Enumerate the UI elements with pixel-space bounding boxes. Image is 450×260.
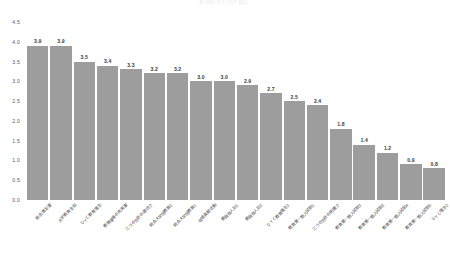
y-axis: 4.54.03.53.02.52.01.51.00.50.0 bbox=[0, 22, 24, 200]
x-label-slot: 総合大学院教育2 bbox=[144, 200, 166, 260]
x-label-slot: 教員個人別1 bbox=[214, 200, 236, 260]
bar-slot[interactable]: 1.2 bbox=[377, 22, 399, 200]
y-axis-tick: 1.5 bbox=[12, 138, 20, 144]
x-label-slot: 教育第一期入試制2 bbox=[330, 200, 352, 260]
x-label-slot: 総合満足度 bbox=[27, 200, 49, 260]
x-label-slot: 大学教育全般 bbox=[50, 200, 72, 260]
bar-slot[interactable]: 3.9 bbox=[50, 22, 72, 200]
bar-value-label: 0.9 bbox=[407, 157, 414, 163]
x-label-slot: 教育環境の充実度 bbox=[97, 200, 119, 260]
bar-value-label: 3.2 bbox=[174, 66, 181, 72]
x-label-slot: 総合大学院教育1 bbox=[167, 200, 189, 260]
x-label-slot: ＤＹＣ教育理念2 bbox=[260, 200, 282, 260]
bar-value-label: 1.8 bbox=[337, 121, 344, 127]
x-label-slot: 教育第一期入試制3 bbox=[353, 200, 375, 260]
bar-value-label: 3.4 bbox=[104, 58, 111, 64]
bar-value-label: 3.5 bbox=[81, 54, 88, 60]
bar[interactable] bbox=[120, 69, 142, 200]
bar[interactable] bbox=[423, 168, 445, 200]
bar-slot[interactable]: 3.4 bbox=[97, 22, 119, 200]
x-label-slot: 教育第一期入試制1 bbox=[284, 200, 306, 260]
bar-slot[interactable]: 3.3 bbox=[120, 22, 142, 200]
y-axis-tick: 3.5 bbox=[12, 59, 20, 65]
bar[interactable] bbox=[214, 81, 236, 200]
bar-slot[interactable]: 3.9 bbox=[27, 22, 49, 200]
bar-slot[interactable]: 1.8 bbox=[330, 22, 352, 200]
bar-slot[interactable]: 0.9 bbox=[400, 22, 422, 200]
y-axis-tick: 0.5 bbox=[12, 177, 20, 183]
bar[interactable] bbox=[400, 164, 422, 200]
bar-slot[interactable]: 3.0 bbox=[190, 22, 212, 200]
bar[interactable] bbox=[74, 62, 96, 200]
bar-slot[interactable]: 3.2 bbox=[144, 22, 166, 200]
x-label-slot: 地域貢献活動 bbox=[190, 200, 212, 260]
bar[interactable] bbox=[260, 93, 282, 200]
bar[interactable] bbox=[50, 46, 72, 200]
y-axis-tick: 4.5 bbox=[12, 19, 20, 25]
bar-value-label: 2.5 bbox=[291, 94, 298, 100]
bar[interactable] bbox=[284, 101, 306, 200]
bar[interactable] bbox=[307, 105, 329, 200]
bar-value-label: 3.0 bbox=[221, 74, 228, 80]
y-axis-tick: 1.0 bbox=[12, 157, 20, 163]
x-label-slot: 教員個人別2 bbox=[237, 200, 259, 260]
bar[interactable] bbox=[190, 81, 212, 200]
plot-area: 3.93.93.53.43.33.23.23.03.02.92.72.52.41… bbox=[26, 22, 446, 200]
chart-title: 各項目の平均評価点 bbox=[0, 0, 448, 5]
bar-series: 3.93.93.53.43.33.23.23.03.02.92.72.52.41… bbox=[26, 22, 446, 200]
x-axis-label: 総合満足度 bbox=[34, 202, 52, 220]
bar[interactable] bbox=[377, 153, 399, 200]
y-axis-tick: 4.0 bbox=[12, 39, 20, 45]
bar-slot[interactable]: 2.9 bbox=[237, 22, 259, 200]
bar-slot[interactable]: 3.0 bbox=[214, 22, 236, 200]
x-label-slot: 三つの方針の明確さ bbox=[307, 200, 329, 260]
bar-slot[interactable]: 3.5 bbox=[74, 22, 96, 200]
bar-value-label: 2.4 bbox=[314, 98, 321, 104]
x-axis-labels: 総合満足度大学教育全般ＤＹＣ教育理念教育環境の充実度三つの方針の適切さ総合大学院… bbox=[26, 200, 446, 260]
bar-slot[interactable]: 2.4 bbox=[307, 22, 329, 200]
bar-value-label: 3.9 bbox=[34, 38, 41, 44]
bar-value-label: 3.9 bbox=[57, 38, 64, 44]
y-axis-tick: 2.5 bbox=[12, 98, 20, 104]
bar[interactable] bbox=[353, 145, 375, 200]
bar-value-label: 2.9 bbox=[244, 78, 251, 84]
y-axis-tick: 2.0 bbox=[12, 118, 20, 124]
bar-slot[interactable]: 3.2 bbox=[167, 22, 189, 200]
bar-value-label: 3.2 bbox=[151, 66, 158, 72]
y-axis-tick: 0.0 bbox=[12, 197, 20, 203]
bar-value-label: 1.2 bbox=[384, 145, 391, 151]
x-label-slot: 三つの方針の適切さ bbox=[120, 200, 142, 260]
bar-value-label: 3.0 bbox=[197, 74, 204, 80]
bar[interactable] bbox=[27, 46, 49, 200]
bar-value-label: 2.7 bbox=[267, 86, 274, 92]
bar-slot[interactable]: 2.7 bbox=[260, 22, 282, 200]
x-label-slot: ＤＹＣ理念2 bbox=[423, 200, 445, 260]
bar[interactable] bbox=[237, 85, 259, 200]
bar-value-label: 3.3 bbox=[127, 62, 134, 68]
bar[interactable] bbox=[144, 73, 166, 200]
x-axis-label: ＤＹＣ理念2 bbox=[430, 202, 450, 222]
bar-slot[interactable]: 2.5 bbox=[284, 22, 306, 200]
bar-value-label: 0.8 bbox=[431, 161, 438, 167]
bar[interactable] bbox=[330, 129, 352, 200]
y-axis-tick: 3.0 bbox=[12, 78, 20, 84]
bar-value-label: 1.4 bbox=[361, 137, 368, 143]
x-label-slot: 教育第一期入試制4 bbox=[377, 200, 399, 260]
bar-slot[interactable]: 0.8 bbox=[423, 22, 445, 200]
bar[interactable] bbox=[97, 66, 119, 200]
x-label-slot: ＤＹＣ教育理念 bbox=[74, 200, 96, 260]
x-label-slot: 教育第一期入試制5 bbox=[400, 200, 422, 260]
bar-slot[interactable]: 1.4 bbox=[353, 22, 375, 200]
bar[interactable] bbox=[167, 73, 189, 200]
